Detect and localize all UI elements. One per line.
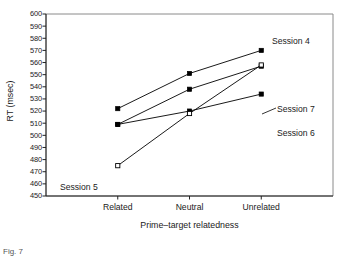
series-label-session-4: Session 4 [272, 36, 310, 46]
x-tick-label-neutral: Neutral [156, 202, 224, 212]
y-tick-label: 540 [22, 82, 42, 91]
y-tick-label: 520 [22, 106, 42, 115]
y-tick-label: 510 [22, 119, 42, 128]
y-tick-label: 480 [22, 155, 42, 164]
series-label-session-6: Session 6 [277, 128, 315, 138]
y-tick-label: 560 [22, 58, 42, 67]
y-tick-label: 550 [22, 70, 42, 79]
figure-caption: Fig. 7 [3, 247, 23, 256]
y-tick-label: 500 [22, 131, 42, 140]
y-tick-label: 460 [22, 179, 42, 188]
y-tick-label: 490 [22, 143, 42, 152]
figure-container: RT (msec) 450460470480490500510520530540… [0, 0, 351, 257]
y-tick-label: 470 [22, 167, 42, 176]
y-tick-label: 590 [22, 22, 42, 31]
x-tick-label-unrelated: Unrelated [227, 202, 295, 212]
y-tick-label: 600 [22, 9, 42, 18]
y-tick-label: 580 [22, 34, 42, 43]
y-tick-label: 450 [22, 191, 42, 200]
x-axis-title: Prime–target relatedness [120, 220, 260, 230]
series-label-session-5: Session 5 [60, 182, 98, 192]
y-tick-label: 530 [22, 94, 42, 103]
y-axis-title: RT (msec) [5, 78, 15, 124]
x-tick-label-related: Related [84, 202, 152, 212]
y-tick-label: 570 [22, 46, 42, 55]
series-label-session-7: Session 7 [277, 104, 315, 114]
